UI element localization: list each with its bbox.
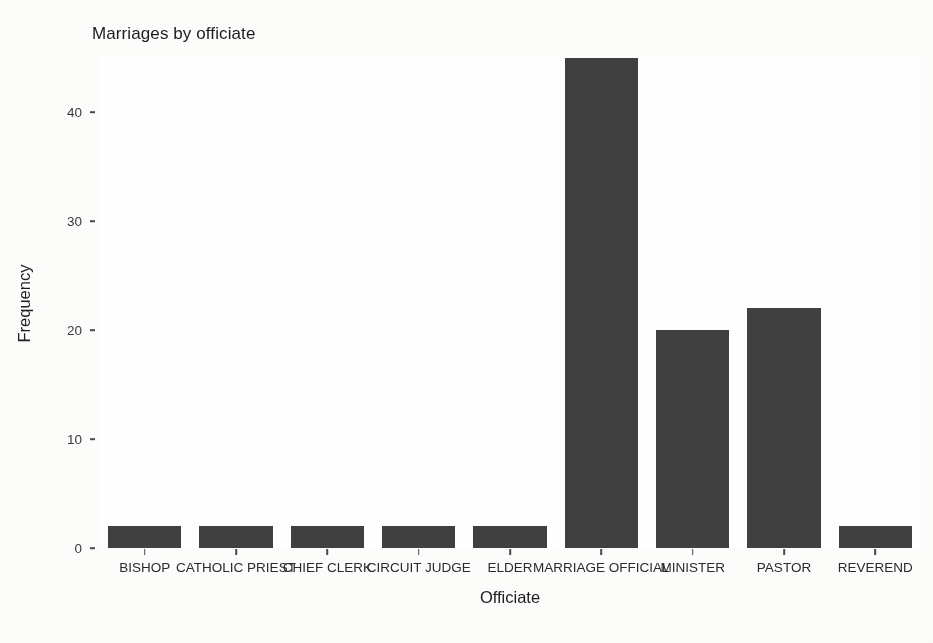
bar <box>565 58 638 548</box>
x-axis-tick-mark <box>327 549 329 555</box>
y-axis-tick-labels: 010203040 <box>46 58 82 548</box>
figure-canvas: Marriages by officiate Frequency 0102030… <box>0 0 933 643</box>
x-axis-tick-labels: BISHOPCATHOLIC PRIESTCHIEF CLERKCIRCUIT … <box>99 560 921 584</box>
y-axis-tick-mark <box>90 438 95 440</box>
x-axis-title: Officiate <box>99 588 921 607</box>
y-axis-tick-label: 20 <box>67 323 82 338</box>
x-axis-tick-mark <box>875 549 877 555</box>
x-axis-tick-marks <box>99 549 921 556</box>
y-axis-tick-label: 40 <box>67 105 82 120</box>
bar <box>108 526 181 548</box>
x-axis-tick-label: MARRIAGE OFFICIAL <box>533 560 670 575</box>
x-axis-tick-label: REVEREND <box>838 560 913 575</box>
y-axis-tick-label: 0 <box>74 541 82 556</box>
y-axis-title-label: Frequency <box>16 264 35 342</box>
bar <box>199 526 272 548</box>
x-axis-tick-label: CIRCUIT JUDGE <box>367 560 471 575</box>
x-axis-tick-label: BISHOP <box>119 560 170 575</box>
page-title: Marriages by officiate <box>92 24 255 44</box>
bar <box>839 526 912 548</box>
x-axis-tick-mark <box>783 549 785 555</box>
x-axis-tick-mark <box>692 549 694 555</box>
x-axis-tick-label: ELDER <box>487 560 532 575</box>
y-axis-tick-mark <box>90 221 95 223</box>
x-axis-tick-label: PASTOR <box>757 560 811 575</box>
x-axis-tick-mark <box>235 549 237 555</box>
y-axis-tick-mark <box>90 547 95 549</box>
y-axis-tick-mark <box>90 329 95 331</box>
y-axis-tick-marks <box>90 58 96 548</box>
x-axis-tick-mark <box>144 549 146 555</box>
bar <box>473 526 546 548</box>
x-axis-tick-mark <box>418 549 420 555</box>
x-axis-tick-label: MINISTER <box>660 560 725 575</box>
bar-series <box>99 58 921 548</box>
bar <box>382 526 455 548</box>
y-axis-tick-label: 10 <box>67 432 82 447</box>
y-axis-tick-mark <box>90 112 95 114</box>
bar <box>291 526 364 548</box>
x-axis-tick-label: CATHOLIC PRIEST <box>176 560 296 575</box>
bar <box>747 308 820 548</box>
x-axis-tick-mark <box>601 549 603 555</box>
y-axis-title: Frequency <box>14 58 36 548</box>
plot-panel <box>99 58 921 548</box>
bar <box>656 330 729 548</box>
y-axis-tick-label: 30 <box>67 214 82 229</box>
x-axis-tick-label: CHIEF CLERK <box>283 560 372 575</box>
x-axis-tick-mark <box>509 549 511 555</box>
